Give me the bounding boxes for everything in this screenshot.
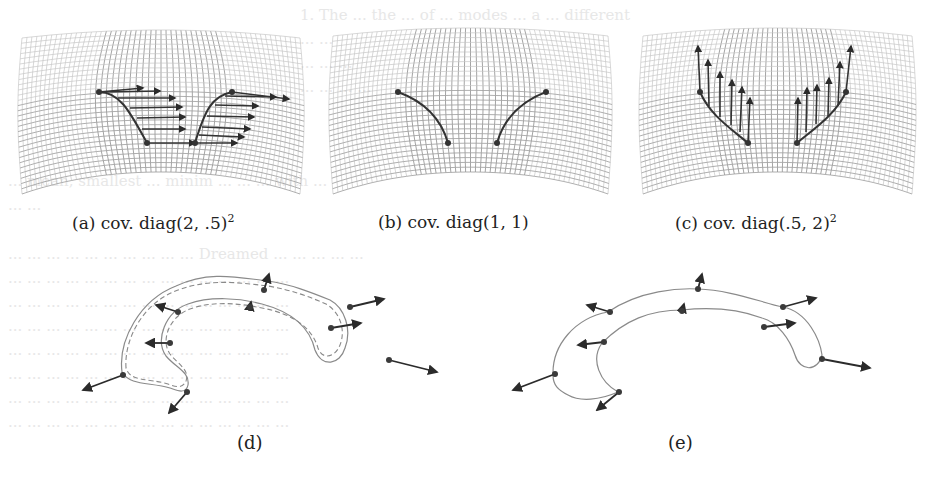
caption-a-text: cov. diag(2, .5) xyxy=(101,213,228,233)
caption-d: (d) xyxy=(237,432,263,453)
caption-d-label: (d) xyxy=(237,432,263,453)
panel-e-shape xyxy=(513,274,870,410)
caption-b: (b) cov. diag(1, 1) xyxy=(378,212,529,232)
caption-e-label: (e) xyxy=(668,432,693,453)
figure-canvas xyxy=(0,0,936,481)
deformation-grid-b xyxy=(329,28,612,194)
panel-d-shape xyxy=(83,274,437,413)
caption-a: (a) cov. diag(2, .5)2 xyxy=(72,212,234,233)
caption-c-label: (c) xyxy=(675,213,698,233)
panel-b-overlay xyxy=(395,89,549,146)
caption-a-sup: 2 xyxy=(227,212,234,225)
caption-c-sup: 2 xyxy=(830,212,837,225)
deformation-grid-a xyxy=(18,30,304,194)
caption-e: (e) xyxy=(668,432,693,453)
caption-c-text: cov. diag(.5, 2) xyxy=(703,213,830,233)
caption-b-label: (b) xyxy=(378,212,402,232)
deformation-grid-c xyxy=(639,28,916,194)
caption-b-text: cov. diag(1, 1) xyxy=(408,212,529,232)
caption-a-label: (a) xyxy=(72,213,95,233)
caption-c: (c) cov. diag(.5, 2)2 xyxy=(675,212,837,233)
